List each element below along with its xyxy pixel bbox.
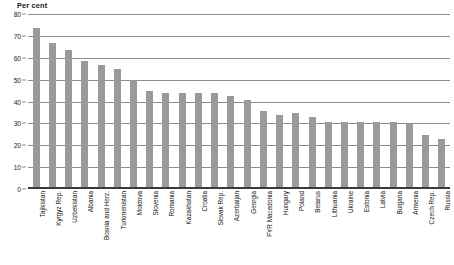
bar (65, 50, 72, 188)
bar (357, 122, 364, 188)
bar (292, 113, 299, 187)
bar (130, 80, 137, 187)
x-axis-tick-label: Moldova (136, 191, 143, 215)
x-axis-tick-label: Armenia (412, 191, 419, 215)
bar (276, 115, 283, 187)
y-axis-unit-caption: Per cent (17, 1, 47, 10)
x-axis-tick-label: Azerbaijan (233, 191, 240, 221)
y-axis-tick-mark (22, 189, 26, 190)
bar (325, 122, 332, 188)
y-axis-tick-label: 10 (14, 164, 21, 171)
x-axis-tick-label: Turkmenistan (120, 191, 127, 229)
x-axis-tick-label: Slovak Rep. (217, 191, 224, 225)
x-axis-tick-label: Bosnia and Herz. (103, 191, 110, 240)
y-axis-tick-label: 80 (14, 11, 21, 18)
bar (33, 28, 40, 188)
x-axis-tick-label: Russia (444, 191, 451, 211)
x-axis-tick-label: Ukraine (347, 191, 354, 213)
bar (422, 135, 429, 188)
y-axis-tick-mark (22, 145, 26, 146)
x-axis-tick-label: Tajikistan (39, 191, 46, 217)
y-axis-tick-mark (22, 167, 26, 168)
bar (227, 96, 234, 188)
bar-series (28, 14, 450, 189)
y-axis-tick-label: 70 (14, 32, 21, 39)
y-axis-tick-label: 20 (14, 142, 21, 149)
x-axis-tick-label: Belarus (314, 191, 321, 213)
x-axis-tick-label: Kyrgyz Rep. (55, 191, 62, 226)
x-axis-tick-label: Georgia (250, 191, 257, 214)
y-axis-tick-mark (22, 35, 26, 36)
bar (179, 93, 186, 187)
y-axis-tick-mark (22, 14, 26, 15)
x-axis-tick-label: Czech Rep. (428, 191, 435, 224)
x-axis-tick-label: Bulgaria (396, 191, 403, 214)
y-axis-tick-label: 30 (14, 120, 21, 127)
y-axis-tick-mark (22, 57, 26, 58)
x-axis-tick-label: Hungary (282, 191, 289, 215)
bar (49, 43, 56, 187)
x-axis-tick-label: Uzbekistan (71, 191, 78, 223)
x-axis-tick-label: Poland (298, 191, 305, 211)
y-axis-tick-label: 60 (14, 54, 21, 61)
plot-area (28, 14, 450, 189)
bar (309, 117, 316, 187)
x-axis-tick-label: Lithuania (331, 191, 338, 217)
bar (98, 65, 105, 188)
x-axis-tick-label: Estonia (363, 191, 370, 212)
x-axis-category-labels: TajikistanKyrgyz Rep.UzbekistanAlbaniaBo… (28, 191, 450, 265)
bar (195, 93, 202, 187)
y-axis-tick-mark (22, 79, 26, 80)
bar (162, 93, 169, 187)
bar (406, 124, 413, 187)
bar (244, 100, 251, 188)
bar (146, 91, 153, 187)
bar (81, 61, 88, 188)
y-axis-tick-label: 50 (14, 76, 21, 83)
bar (211, 93, 218, 187)
bar-chart: Per cent 01020304050607080 TajikistanKyr… (0, 0, 454, 265)
bar (341, 122, 348, 188)
x-axis-tick-label: Latvia (379, 191, 386, 208)
x-axis-tick-label: Albania (87, 191, 94, 212)
bar (373, 122, 380, 188)
x-axis-tick-label: Romania (168, 191, 175, 217)
x-axis-tick-label: FYR Macedonia (266, 191, 273, 237)
y-axis-labels: 01020304050607080 (0, 14, 26, 189)
bar (438, 139, 445, 187)
x-axis-tick-label: Croatia (201, 191, 208, 212)
y-axis-tick-label: 40 (14, 98, 21, 105)
x-axis-tick-label: Slovenia (152, 191, 159, 216)
bar (390, 122, 397, 188)
x-axis-tick-label: Kazakhstan (185, 191, 192, 224)
y-axis-tick-mark (22, 101, 26, 102)
bar (114, 69, 121, 187)
bar (260, 111, 267, 188)
y-axis-tick-label: 0 (17, 186, 21, 193)
y-axis-tick-mark (22, 123, 26, 124)
